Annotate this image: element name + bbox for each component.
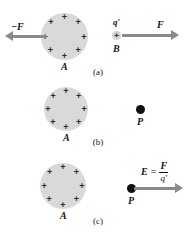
physics-figure: + + + + + + + + A −F q′ + B F (a) + + + … — [0, 0, 196, 242]
force-arrow-shaft-right — [122, 34, 172, 37]
plus-charge-icon: + — [75, 18, 82, 27]
plus-charge-icon: + — [73, 195, 80, 204]
equation-fraction: F q′ — [159, 161, 168, 183]
plus-charge-icon: + — [75, 46, 82, 55]
field-arrow-head — [175, 183, 183, 193]
charged-sphere-a: + + + + + + + + — [40, 163, 86, 209]
force-arrow-shaft-left — [12, 35, 46, 38]
plus-charge-icon: + — [47, 18, 54, 27]
panel-b: + + + + + + + + A P (b) — [0, 78, 196, 156]
field-point-label: P — [137, 117, 143, 127]
panel-caption-b: (b) — [0, 138, 196, 147]
plus-charge-icon: + — [81, 105, 88, 114]
field-equation: E = F q′ — [141, 161, 168, 183]
plus-charge-icon: + — [46, 168, 53, 177]
plus-charge-icon: + — [60, 200, 67, 209]
plus-charge-icon: + — [63, 123, 70, 132]
plus-charge-icon: + — [46, 195, 53, 204]
plus-charge-icon: + — [41, 182, 48, 191]
plus-charge-icon: + — [47, 46, 54, 55]
plus-charge-icon: + — [78, 182, 85, 191]
plus-charge-icon: + — [44, 105, 51, 114]
equation-numerator: F — [159, 161, 168, 172]
panel-c: + + + + + + + + A E = F q′ P (c) — [0, 155, 196, 242]
panel-caption-a: (a) — [0, 68, 196, 77]
panel-caption-c: (c) — [0, 217, 196, 226]
plus-charge-icon: + — [50, 91, 57, 100]
force-label-positive: F — [157, 20, 164, 30]
plus-charge-icon: + — [61, 12, 68, 21]
equation-lhs: E — [141, 167, 148, 177]
panel-a: + + + + + + + + A −F q′ + B F (a) — [0, 0, 196, 80]
field-point-marker — [136, 105, 145, 114]
equation-denominator: q′ — [160, 173, 168, 183]
plus-charge-icon: + — [75, 91, 82, 100]
charged-sphere-a: + + + + + + + + — [44, 87, 88, 131]
field-point-label: P — [128, 196, 134, 206]
force-label-negative: −F — [11, 22, 24, 32]
plus-charge-icon: + — [80, 32, 87, 41]
plus-charge-icon: + — [60, 162, 67, 171]
test-charge-point-label: B — [113, 44, 120, 54]
plus-charge-icon: + — [75, 117, 82, 126]
test-charge-label: q′ — [113, 17, 120, 27]
field-arrow-shaft — [134, 187, 176, 190]
force-arrow-head-right — [171, 30, 179, 40]
plus-charge-icon: + — [61, 51, 68, 60]
equation-operator: = — [151, 167, 157, 177]
test-charge-icon: + — [112, 31, 121, 40]
plus-charge-icon: + — [49, 117, 56, 126]
charged-sphere-a: + + + + + + + + — [41, 13, 88, 60]
plus-charge-icon: + — [63, 86, 70, 95]
force-arrow-head-left — [5, 31, 13, 41]
plus-charge-icon: + — [73, 168, 80, 177]
